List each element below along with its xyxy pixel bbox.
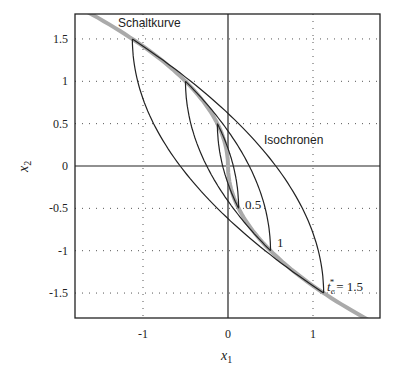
phase-plot: -1011.510.50-0.5-1-1.5 Schaltkurve Isoch… (0, 0, 397, 377)
svg-text:1.5: 1.5 (53, 32, 68, 46)
svg-text:1: 1 (310, 327, 316, 341)
schaltkurve-label: Schaltkurve (118, 16, 181, 30)
isochrone-1.5-label: te*= 1.5 (327, 277, 363, 296)
isochronen-label: Isochronen (264, 133, 323, 147)
svg-text:-1: -1 (138, 327, 148, 341)
x-axis-label: x1 (220, 348, 232, 365)
svg-text:-0.5: -0.5 (49, 201, 68, 215)
y-axis-label: x2 (16, 161, 33, 173)
svg-text:-1: -1 (58, 244, 68, 258)
svg-text:0: 0 (225, 327, 231, 341)
svg-text:-1.5: -1.5 (49, 286, 68, 300)
svg-text:1: 1 (62, 74, 68, 88)
svg-text:0: 0 (62, 159, 68, 173)
svg-text:0.5: 0.5 (53, 117, 68, 131)
isochrone-1-label: 1 (277, 235, 284, 250)
isochrone-0.5-label: 0.5 (245, 197, 261, 212)
